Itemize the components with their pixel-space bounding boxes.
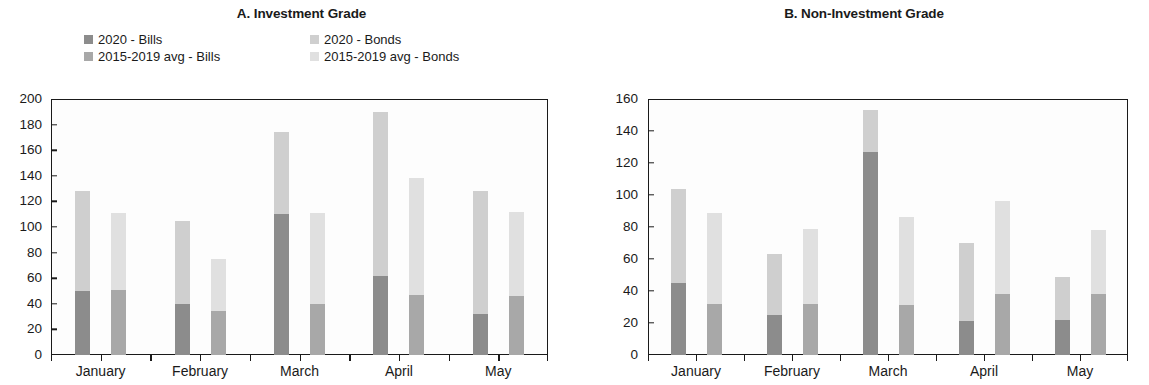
bar-segment <box>1091 230 1106 294</box>
y-tick-label: 120 <box>19 195 42 209</box>
bar-april-avg <box>409 178 424 355</box>
bar-segment <box>1055 277 1070 320</box>
y-tick-mark <box>648 130 654 131</box>
y-tick-label: 0 <box>630 348 638 362</box>
bar-segment <box>863 152 878 355</box>
panel-investment-grade: A. Investment Grade 2020 - Bills 2020 - … <box>0 0 575 385</box>
panel-b-plot-area <box>648 99 1128 355</box>
bar-march-avg <box>899 217 914 355</box>
x-axis-label-january: January <box>671 363 721 379</box>
panel-b-y-axis: 020406080100120140160 <box>596 99 644 355</box>
bar-segment <box>175 304 190 355</box>
y-tick-label: 180 <box>19 118 42 132</box>
y-tick-label: 40 <box>623 284 638 298</box>
bar-segment <box>899 217 914 305</box>
y-tick-mark <box>648 226 654 227</box>
bar-january-avg <box>707 213 722 355</box>
bar-january-2020 <box>75 191 90 355</box>
panel-a-plot-area <box>51 99 548 355</box>
y-tick-mark <box>648 162 654 163</box>
bar-segment <box>274 214 289 355</box>
bar-segment <box>75 191 90 291</box>
x-axis-label-march: March <box>280 363 319 379</box>
y-tick-label: 60 <box>27 271 42 285</box>
y-tick-mark <box>648 322 654 323</box>
y-tick-label: 20 <box>623 316 638 330</box>
x-tick-mark <box>696 355 697 361</box>
bar-may-avg <box>509 212 524 355</box>
bar-segment <box>671 189 686 283</box>
y-tick-mark <box>648 258 654 259</box>
panel-a-title: A. Investment Grade <box>0 6 575 21</box>
panel-a-bars <box>51 99 548 355</box>
bar-segment <box>111 290 126 355</box>
y-tick-label: 60 <box>623 252 638 266</box>
x-tick-mark <box>150 355 151 361</box>
legend-swatch-avg-bonds <box>310 52 319 61</box>
y-tick-label: 20 <box>27 323 42 337</box>
bar-segment <box>373 112 388 276</box>
bar-february-avg <box>803 229 818 355</box>
y-tick-label: 80 <box>27 246 42 260</box>
panel-b-title: B. Non-Investment Grade <box>575 6 1149 21</box>
x-tick-mark <box>498 355 499 361</box>
y-tick-mark <box>51 329 57 330</box>
legend-label-avg-bonds: 2015-2019 avg - Bonds <box>324 49 459 64</box>
bar-february-avg <box>211 259 226 355</box>
x-tick-mark <box>449 355 450 361</box>
bar-segment <box>803 229 818 304</box>
bar-segment <box>671 283 686 355</box>
x-tick-mark <box>792 355 793 361</box>
x-tick-mark <box>547 355 548 361</box>
y-tick-label: 160 <box>615 92 638 106</box>
bar-segment <box>409 295 424 355</box>
y-tick-mark <box>51 201 57 202</box>
legend-item-avg-bills: 2015-2019 avg - Bills <box>84 49 292 64</box>
bar-segment <box>1055 320 1070 355</box>
x-axis-label-january: January <box>76 363 126 379</box>
x-tick-mark <box>101 355 102 361</box>
bar-may-2020 <box>1055 277 1070 355</box>
x-tick-mark <box>1080 355 1081 361</box>
bar-april-2020 <box>373 112 388 355</box>
bar-segment <box>899 305 914 355</box>
bar-march-2020 <box>274 132 289 355</box>
legend-swatch-avg-bills <box>84 52 93 61</box>
figure-bond-bill-issuance: A. Investment Grade 2020 - Bills 2020 - … <box>0 0 1149 385</box>
bar-segment <box>509 212 524 296</box>
panel-a-y-axis: 020406080100120140160180200 <box>0 99 48 355</box>
x-tick-mark <box>250 355 251 361</box>
y-tick-mark <box>51 277 57 278</box>
bar-april-2020 <box>959 243 974 355</box>
bar-segment <box>310 304 325 355</box>
x-axis-label-april: April <box>970 363 998 379</box>
x-tick-mark <box>744 355 745 361</box>
y-tick-label: 140 <box>615 124 638 138</box>
bar-january-2020 <box>671 189 686 355</box>
x-tick-mark <box>1032 355 1033 361</box>
y-tick-mark <box>51 124 57 125</box>
x-axis-label-may: May <box>1067 363 1093 379</box>
bar-segment <box>373 276 388 355</box>
y-tick-mark <box>51 175 57 176</box>
legend-swatch-2020-bonds <box>310 35 319 44</box>
legend-item-2020-bonds: 2020 - Bonds <box>310 32 459 47</box>
bar-segment <box>75 291 90 355</box>
y-tick-mark <box>51 252 57 253</box>
bar-may-avg <box>1091 230 1106 355</box>
bar-segment <box>111 213 126 290</box>
legend-item-avg-bonds: 2015-2019 avg - Bonds <box>310 49 459 64</box>
panel-a-x-ticks <box>51 355 548 363</box>
y-tick-label: 140 <box>19 169 42 183</box>
y-tick-label: 120 <box>615 156 638 170</box>
x-axis-label-may: May <box>485 363 511 379</box>
bar-segment <box>211 259 226 311</box>
legend-label-2020-bills: 2020 - Bills <box>98 32 162 47</box>
panel-b-x-ticks <box>648 355 1128 363</box>
x-axis-label-april: April <box>385 363 413 379</box>
bar-segment <box>959 321 974 355</box>
x-tick-mark <box>200 355 201 361</box>
bar-february-2020 <box>175 221 190 355</box>
bar-february-2020 <box>767 254 782 355</box>
legend-label-avg-bills: 2015-2019 avg - Bills <box>98 49 220 64</box>
